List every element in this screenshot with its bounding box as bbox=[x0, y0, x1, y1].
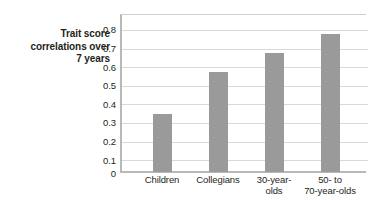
y-tick-label-8: 0.8 bbox=[86, 25, 116, 35]
bar-collegians bbox=[209, 72, 228, 172]
x-axis-ticks: Children Collegians 30-year- olds 50- to… bbox=[120, 175, 366, 200]
x-tick-label-50-to-70-year-olds: 50- to 70-year-olds bbox=[280, 175, 371, 196]
y-tick-label-7: 0.7 bbox=[86, 44, 116, 54]
y-tick-label-4: 0.4 bbox=[86, 100, 116, 110]
y-tick-label-5: 0.5 bbox=[86, 81, 116, 91]
x-tick-label-50-to-70-year-olds-line-2: 70-year-olds bbox=[280, 186, 371, 197]
x-tick-label-50-to-70-year-olds-line-1: 50- to bbox=[280, 175, 371, 186]
bar-children bbox=[153, 114, 172, 172]
y-axis-ticks: 0.8 0.7 0.6 0.5 0.4 0.3 0.2 0.1 0 bbox=[84, 0, 116, 200]
y-tick-label-2: 0.2 bbox=[86, 137, 116, 147]
y-tick-label-1: 0.1 bbox=[86, 156, 116, 166]
bar-series bbox=[120, 14, 366, 172]
y-tick-label-3: 0.3 bbox=[86, 118, 116, 128]
y-tick-label-6: 0.6 bbox=[86, 63, 116, 73]
bar-50-to-70-year-olds bbox=[321, 34, 340, 172]
bar-chart: Trait score correlations over 7 years 0.… bbox=[0, 0, 371, 200]
bar-30-year-olds bbox=[265, 53, 284, 172]
